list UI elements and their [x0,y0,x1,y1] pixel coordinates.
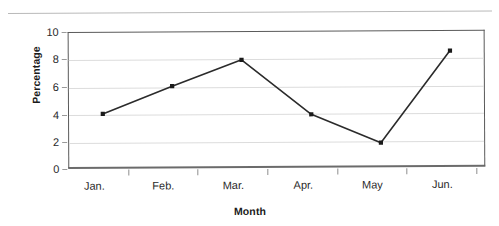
y-tick-mark-8 [62,59,67,60]
y-tick-label-0: 0 [35,164,59,175]
line-chart: Percentage 10 8 6 4 2 0 Jan. Feb. Mar [0,0,499,226]
y-tick-mark-6 [62,87,67,88]
x-tick-mark-apr [337,169,338,175]
x-tick-label-may: May [337,179,407,190]
chart-screenshot: Percentage 10 8 6 4 2 0 Jan. Feb. Mar [0,0,499,226]
gridline-8 [69,58,484,61]
x-tick-mark-may [406,168,407,174]
y-tick-label-6: 6 [35,82,59,93]
plot-area [68,30,486,169]
x-tick-mark-mar [267,169,268,175]
y-tick-label-10: 10 [35,27,59,38]
x-tick-mark-jan [128,170,129,176]
y-tick-label-2: 2 [35,137,59,148]
x-tick-label-apr: Apr. [268,180,338,191]
y-tick-mark-0 [62,169,67,170]
gridline-6 [69,86,484,89]
x-tick-label-mar: Mar. [198,180,268,191]
gridline-4 [69,113,484,116]
y-tick-label-8: 8 [35,54,59,65]
x-tick-mark-feb [197,169,198,175]
x-tick-mark-jun [476,168,477,174]
x-tick-label-jun: Jun. [407,179,477,190]
y-tick-mark-4 [62,115,67,116]
y-tick-mark-10 [62,32,67,33]
x-axis-title: Month [0,204,499,218]
gridline-2 [69,141,484,144]
y-tick-mark-2 [62,142,67,143]
x-tick-label-jan: Jan. [59,181,129,192]
y-tick-label-4: 4 [35,110,59,121]
x-tick-label-feb: Feb. [128,180,198,191]
